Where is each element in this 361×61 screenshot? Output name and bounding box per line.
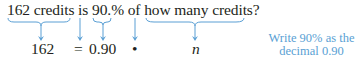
equation-equals-sign: = xyxy=(74,40,83,57)
brace-icon xyxy=(93,18,111,25)
equation-unknown-variable: n xyxy=(192,40,200,57)
equation-left-value: 162 xyxy=(31,40,54,57)
equation-multiply-dot: • xyxy=(132,40,137,57)
brace-icon xyxy=(8,18,70,26)
note-line-2: decimal 0.90 xyxy=(264,45,359,58)
equation-decimal-value: 0.90 xyxy=(89,40,116,57)
explanation-note: Write 90% as the decimal 0.90 xyxy=(264,32,359,58)
brace-icon xyxy=(146,18,244,26)
